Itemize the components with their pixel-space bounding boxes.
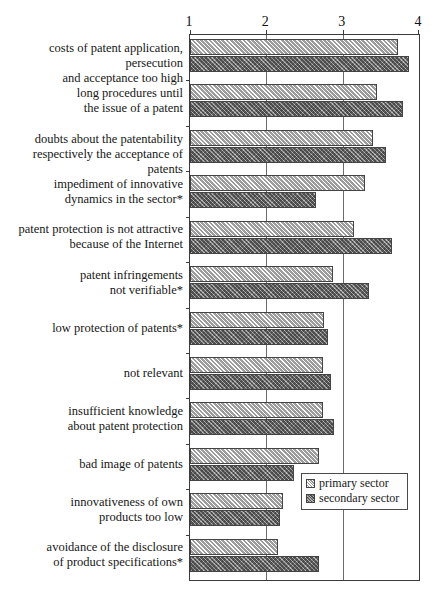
- bar-group: [190, 217, 419, 262]
- legend-label-primary: primary sector: [319, 476, 389, 491]
- category-label-line: impediment of innovative: [0, 177, 183, 192]
- category-label: costs of patent application, persecution…: [0, 41, 183, 86]
- category-label: avoidance of the disclosureof product sp…: [0, 540, 183, 570]
- bar-primary: [190, 448, 319, 464]
- category-label-line: about patent protection: [0, 419, 183, 434]
- bar-primary: [190, 130, 373, 146]
- category-label: insufficient knowledgeabout patent prote…: [0, 404, 183, 434]
- bar-primary: [190, 402, 323, 418]
- legend-label-secondary: secondary sector: [319, 491, 399, 506]
- category-label-line: patent protection is not attractive: [0, 222, 183, 237]
- bar-secondary: [190, 147, 386, 163]
- category-label-line: because of the Internet: [0, 237, 183, 252]
- legend-swatch-secondary-icon: [306, 494, 315, 503]
- category-label-line: respectively the acceptance of patents: [0, 147, 183, 177]
- bar-primary: [190, 175, 365, 191]
- bar-primary: [190, 221, 354, 237]
- category-label-line: and acceptance too high: [0, 71, 183, 86]
- category-label: impediment of innovativedynamics in the …: [0, 177, 183, 207]
- category-label: bad image of patents: [0, 457, 183, 472]
- category-label-line: doubts about the patentability: [0, 132, 183, 147]
- category-label-line: dynamics in the sector*: [0, 192, 183, 207]
- legend-swatch-primary-icon: [306, 479, 315, 488]
- x-axis-tick-label: 2: [250, 14, 280, 30]
- bar-group: [190, 353, 419, 398]
- bar-group: [190, 126, 419, 171]
- bar-secondary: [190, 510, 280, 526]
- bar-group: [190, 171, 419, 216]
- bar-secondary: [190, 101, 403, 117]
- bar-group: [190, 398, 419, 443]
- bar-secondary: [190, 419, 334, 435]
- bar-secondary: [190, 465, 294, 481]
- x-axis-tick-label: 3: [327, 14, 357, 30]
- bar-secondary: [190, 56, 409, 72]
- bar-primary: [190, 39, 398, 55]
- bar-secondary: [190, 374, 331, 390]
- category-label-line: avoidance of the disclosure: [0, 540, 183, 555]
- category-label-line: costs of patent application, persecution: [0, 41, 183, 71]
- category-label: long procedures untilthe issue of a pate…: [0, 86, 183, 116]
- bar-secondary: [190, 192, 316, 208]
- category-label: doubts about the patentabilityrespective…: [0, 132, 183, 177]
- x-axis-tick-labels: 1234: [0, 14, 434, 34]
- bar-primary: [190, 493, 283, 509]
- category-label-line: insufficient knowledge: [0, 404, 183, 419]
- bar-secondary: [190, 238, 392, 254]
- category-labels: costs of patent application, persecution…: [0, 34, 186, 579]
- category-label: patent infringementsnot verifiable*: [0, 268, 183, 298]
- bar-group: [190, 308, 419, 353]
- legend-item-primary-sector: primary sector: [306, 476, 402, 491]
- bar-group: [190, 535, 419, 580]
- bar-primary: [190, 357, 323, 373]
- bar-group: [190, 262, 419, 307]
- category-label-line: low protection of patents*: [0, 321, 183, 336]
- bar-secondary: [190, 329, 328, 345]
- x-axis-tick-label: 4: [403, 14, 433, 30]
- bar-primary: [190, 266, 333, 282]
- category-label-line: bad image of patents: [0, 457, 183, 472]
- category-label-line: the issue of a patent: [0, 101, 183, 116]
- category-label: low protection of patents*: [0, 321, 183, 336]
- bar-secondary: [190, 556, 319, 572]
- bar-primary: [190, 84, 377, 100]
- category-label: not relevant: [0, 366, 183, 381]
- horizontal-bar-chart: 1234 costs of patent application, persec…: [0, 0, 434, 592]
- chart-legend: primary sector secondary sector: [301, 473, 408, 510]
- x-axis-tick-label: 1: [174, 14, 204, 30]
- category-label: patent protection is not attractivebecau…: [0, 222, 183, 252]
- category-label-line: products too low: [0, 510, 183, 525]
- category-label-line: not verifiable*: [0, 283, 183, 298]
- category-label-line: patent infringements: [0, 268, 183, 283]
- bar-secondary: [190, 283, 369, 299]
- bar-primary: [190, 539, 278, 555]
- category-label-line: innovativeness of own: [0, 495, 183, 510]
- legend-item-secondary-sector: secondary sector: [306, 491, 402, 506]
- category-label-line: of product specifications*: [0, 555, 183, 570]
- bar-primary: [190, 312, 324, 328]
- category-label: innovativeness of ownproducts too low: [0, 495, 183, 525]
- category-label-line: not relevant: [0, 366, 183, 381]
- bar-group: [190, 80, 419, 125]
- bar-group: [190, 35, 419, 80]
- category-label-line: long procedures until: [0, 86, 183, 101]
